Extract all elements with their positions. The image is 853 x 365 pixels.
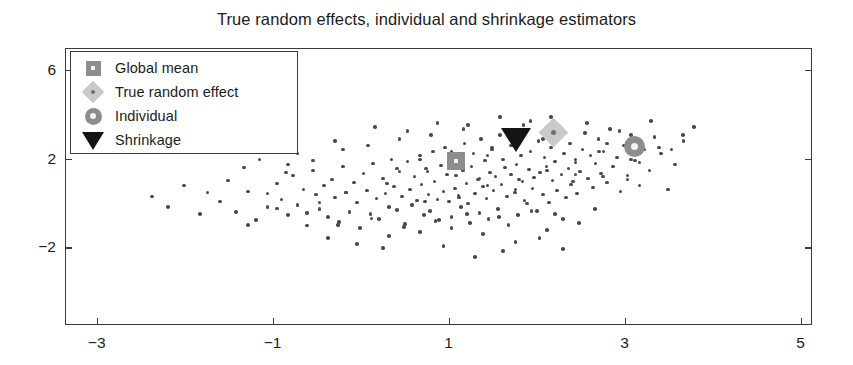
scatter-point [428, 209, 432, 213]
scatter-point [514, 188, 518, 192]
scatter-point [527, 168, 531, 172]
scatter-point [305, 224, 309, 228]
scatter-point [581, 148, 585, 152]
scatter-point [400, 195, 404, 199]
scatter-point [472, 152, 476, 156]
scatter-point [553, 212, 557, 216]
scatter-point [402, 225, 406, 229]
scatter-point [574, 161, 578, 165]
scatter-point [529, 119, 533, 123]
scatter-point [589, 154, 593, 158]
scatter-point [578, 170, 582, 174]
scatter-point [463, 142, 467, 146]
scatter-point [311, 159, 315, 163]
scatter-point [525, 202, 529, 206]
scatter-point [385, 182, 389, 186]
scatter-point [381, 177, 385, 181]
y-tick-label: 6 [10, 61, 56, 79]
scatter-point [551, 179, 555, 183]
scatter-point [583, 131, 587, 135]
scatter-point [487, 217, 491, 221]
scatter-point [422, 213, 426, 217]
scatter-point [450, 226, 454, 230]
scatter-point [418, 230, 422, 234]
scatter-point [657, 146, 661, 150]
scatter-plot-figure: True random effects, individual and shri… [0, 0, 853, 365]
square-icon [86, 61, 101, 76]
scatter-point [519, 154, 523, 158]
scatter-point [454, 174, 458, 178]
legend-label: True random effect [115, 84, 239, 100]
scatter-point [370, 217, 374, 221]
legend: Global meanTrue random effectIndividualS… [70, 51, 298, 154]
scatter-point [515, 163, 519, 167]
scatter-point [522, 123, 526, 127]
scatter-point [470, 165, 474, 169]
scatter-point [486, 184, 490, 188]
scatter-point [483, 159, 487, 163]
scatter-point [362, 172, 366, 176]
scatter-point [468, 221, 472, 225]
scatter-point [497, 215, 501, 219]
legend-label: Shrinkage [115, 132, 181, 148]
scatter-point [486, 154, 490, 158]
scatter-point [365, 189, 369, 193]
scatter-point [626, 178, 630, 182]
scatter-point [562, 152, 566, 156]
scatter-point [459, 205, 463, 209]
x-tick-label: 1 [444, 334, 453, 352]
scatter-point [538, 171, 542, 175]
scatter-point [488, 171, 492, 175]
scatter-point [531, 187, 535, 191]
scatter-point [418, 154, 422, 158]
scatter-point [433, 180, 437, 184]
scatter-point [618, 129, 622, 133]
legend-item-global-mean[interactable]: Global mean [71, 56, 299, 80]
scatter-point [344, 191, 348, 195]
scatter-point [577, 221, 581, 225]
scatter-point [500, 183, 504, 187]
scatter-point [275, 207, 279, 211]
scatter-point [457, 196, 461, 200]
scatter-point [437, 218, 441, 222]
scatter-point [427, 193, 431, 197]
scatter-point [429, 133, 433, 137]
scatter-point [602, 150, 606, 154]
scatter-point [182, 184, 186, 188]
y-tick-right [805, 247, 812, 248]
scatter-point [322, 184, 326, 188]
legend-item-individual[interactable]: Individual [71, 104, 299, 128]
scatter-point [569, 183, 573, 187]
scatter-point [275, 182, 279, 186]
scatter-point [478, 211, 482, 215]
marker-global-mean [447, 152, 465, 170]
scatter-point [692, 125, 696, 129]
y-tick-right [805, 70, 812, 71]
scatter-point [355, 242, 359, 246]
scatter-point [434, 219, 438, 223]
scatter-point [333, 196, 337, 200]
scatter-point [619, 190, 623, 194]
scatter-point [373, 125, 377, 129]
scatter-point [242, 166, 246, 170]
legend-item-shrinkage[interactable]: Shrinkage [71, 128, 299, 152]
scatter-point [408, 188, 412, 192]
scatter-point [390, 158, 394, 162]
scatter-point [406, 129, 410, 133]
scatter-point [398, 137, 402, 141]
circle-icon [85, 108, 102, 125]
scatter-point [568, 142, 572, 146]
page-title: True random effects, individual and shri… [0, 10, 853, 29]
scatter-point [465, 212, 469, 216]
scatter-point [218, 200, 222, 204]
legend-item-true-random-effect[interactable]: True random effect [71, 80, 299, 104]
scatter-point [415, 199, 419, 203]
scatter-point [314, 193, 318, 197]
scatter-point [670, 148, 674, 152]
scatter-point [447, 200, 451, 204]
scatter-point [352, 181, 356, 185]
legend-label: Individual [115, 108, 177, 124]
scatter-point [387, 205, 391, 209]
scatter-point [532, 176, 536, 180]
scatter-point [507, 223, 511, 227]
